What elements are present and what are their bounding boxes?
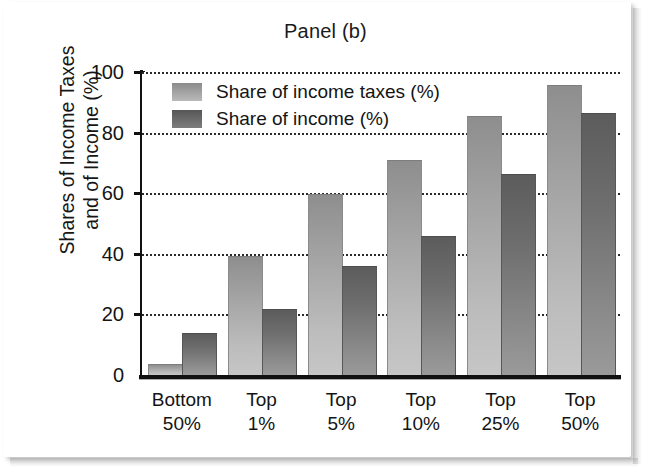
- legend-item-income-taxes: Share of income taxes (%): [172, 78, 440, 105]
- x-tick-label-line-1: Top: [565, 389, 596, 410]
- legend-swatch-icon-income-taxes: [172, 83, 202, 101]
- y-axis-title-line-1: Shares of Income Taxes: [56, 46, 80, 255]
- bar: [148, 364, 183, 375]
- y-axis-tick-labels: 100 80 60 40 20 0: [78, 0, 124, 474]
- chart-legend: Share of income taxes (%) Share of incom…: [172, 78, 440, 132]
- x-tick-label: Top50%: [540, 388, 620, 437]
- chart-figure: Panel (b) Shares of Income Taxes and of …: [0, 0, 651, 474]
- x-axis-tick-labels: Bottom50%Top1%Top5%Top10%Top25%Top50%: [142, 388, 620, 450]
- bar: [342, 266, 377, 375]
- x-tick-label-line-1: Top: [485, 389, 516, 410]
- bar: [262, 309, 297, 375]
- y-tick-label-20: 20: [78, 303, 124, 326]
- x-tick-label-line-2: 5%: [301, 412, 381, 436]
- x-tick-label: Top25%: [461, 388, 541, 437]
- page-shadow-right: [633, 8, 642, 464]
- x-tick-label: Top1%: [222, 388, 302, 437]
- x-tick-label-line-2: 50%: [142, 412, 222, 436]
- x-tick-label-line-1: Top: [406, 389, 437, 410]
- x-tick-label-line-1: Bottom: [152, 389, 212, 410]
- bar: [421, 236, 456, 375]
- y-tick-label-40: 40: [78, 242, 124, 265]
- x-tick-label: Top10%: [381, 388, 461, 437]
- legend-item-income: Share of income (%): [172, 105, 440, 132]
- bar: [467, 116, 502, 375]
- x-tick-label-line-2: 10%: [381, 412, 461, 436]
- bar: [581, 113, 616, 375]
- bar: [182, 333, 217, 375]
- x-tick-label-line-2: 25%: [461, 412, 541, 436]
- x-axis-line-shadow: [139, 379, 621, 380]
- y-tick-label-0: 0: [78, 364, 124, 387]
- legend-label-income-taxes: Share of income taxes (%): [216, 81, 440, 103]
- gridline-100: [142, 72, 620, 74]
- x-tick-label: Bottom50%: [142, 388, 222, 437]
- legend-label-income: Share of income (%): [216, 108, 389, 130]
- x-tick-label-line-2: 1%: [222, 412, 302, 436]
- y-tick-label-80: 80: [78, 121, 124, 144]
- bar: [501, 174, 536, 375]
- x-tick-label-line-1: Top: [246, 389, 277, 410]
- bar: [228, 256, 263, 375]
- legend-swatch-icon-income: [172, 110, 202, 128]
- y-tick-label-100: 100: [78, 61, 124, 84]
- x-tick-label: Top5%: [301, 388, 381, 437]
- y-tick-label-60: 60: [78, 182, 124, 205]
- x-tick-label-line-1: Top: [326, 389, 357, 410]
- bar: [547, 85, 582, 375]
- x-tick-label-line-2: 50%: [540, 412, 620, 436]
- bar: [308, 194, 343, 375]
- bar: [387, 160, 422, 375]
